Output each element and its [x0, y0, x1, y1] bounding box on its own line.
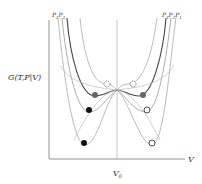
y-axis-label: G(T,P|V)	[8, 73, 41, 82]
v0-sub: 0	[119, 173, 123, 179]
open-circle-marker	[149, 140, 155, 146]
gray-filled-marker	[92, 92, 98, 98]
right-label-sub: 1	[179, 15, 182, 20]
open-circle-marker	[144, 107, 150, 113]
v0-tick-label: V0	[113, 169, 123, 179]
x-axis-label: V	[188, 155, 195, 164]
open-circle-marker	[130, 81, 136, 87]
black-filled-marker	[86, 107, 92, 113]
curve-p4	[80, 18, 157, 90]
left-pressure-labels: P1P2	[51, 11, 66, 20]
curve-p3	[67, 18, 166, 96]
gibbs-energy-diagram: G(T,P|V) V V0 P1P2 P3P2P1	[0, 0, 202, 184]
right-pressure-labels: P3P2P1	[161, 11, 182, 20]
left-label-sub: 2	[62, 15, 66, 20]
curve-p6	[74, 65, 174, 140]
black-filled-marker	[81, 140, 87, 146]
open-circle-marker	[104, 81, 110, 87]
gray-filled-marker	[140, 92, 146, 98]
